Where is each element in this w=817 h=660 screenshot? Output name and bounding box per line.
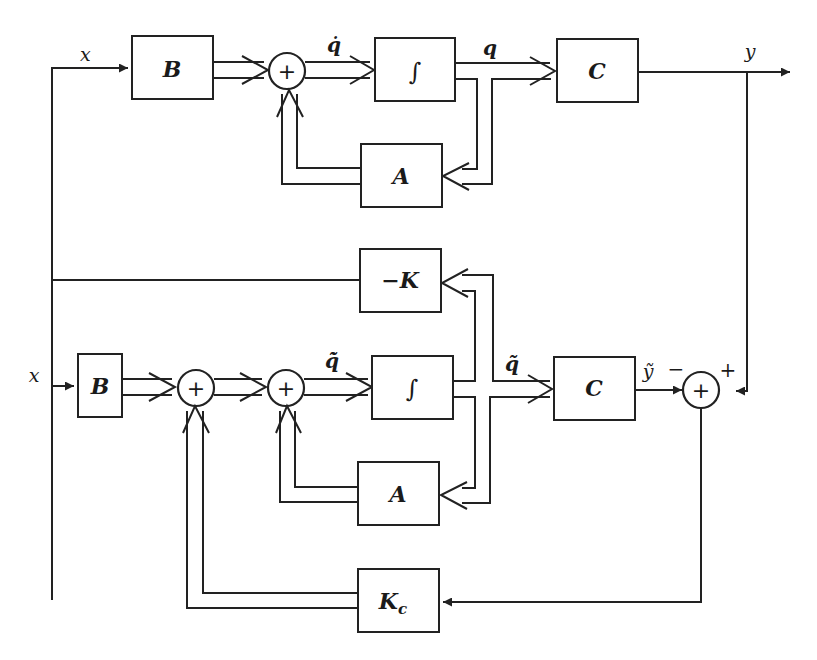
observer-b-to-sum1-arrow (122, 373, 175, 401)
observer-sum1-symbol: + (187, 376, 205, 401)
plant-a-label: A (390, 163, 409, 189)
state-feedback-gain-block: −K (360, 249, 441, 312)
plant-input-label: x (80, 43, 91, 65)
plant-qdot-label: q̇ (327, 33, 341, 57)
observer-input-label: x (29, 364, 40, 386)
observer-qtilde-arrow: q̃ (441, 269, 552, 509)
plant-b-label: B (162, 56, 182, 82)
observer-b-block: B (78, 354, 122, 417)
observer-sum1-to-sum2-arrow (214, 373, 266, 401)
plant-qdot-arrow: q̇ (305, 33, 374, 84)
plant-integrator-block: ∫ (375, 38, 455, 101)
observer-integrator-symbol: ∫ (406, 375, 419, 403)
observer-sum2-junction: + (268, 370, 304, 406)
error-sum-plus-sign: + (720, 358, 737, 382)
error-to-kc-signal (443, 408, 701, 602)
observer-ytilde-label: ỹ (642, 360, 654, 382)
plant-integrator-symbol: ∫ (409, 58, 422, 86)
observer-gain-feedback-arrow (183, 406, 358, 608)
observer-sum1-junction: + (178, 370, 214, 406)
plant-q-arrow: q (443, 36, 555, 190)
observer-qtilde-label: q̃ (505, 352, 519, 376)
state-feedback-gain-label: −K (381, 267, 419, 293)
error-sum-minus-sign: − (668, 357, 685, 381)
plant-a-feedback-arrow (277, 90, 361, 184)
observer-a-label: A (387, 481, 406, 507)
plant-q-label: q (483, 36, 497, 60)
observer-a-block: A (358, 462, 439, 525)
plant-b-block: B (132, 36, 213, 99)
plant-output-label: y (744, 40, 756, 62)
observer-qtilde-dot-label: q̃̇ (325, 349, 339, 373)
block-diagram: x B + q̇ ∫ q C (0, 0, 817, 660)
observer-a-feedback-arrow (276, 406, 358, 502)
observer-qtilde-dot-arrow: q̃̇ (304, 349, 372, 401)
error-sum-junction: + − + (668, 357, 737, 408)
plant-output-signal: y (638, 40, 790, 391)
plant-sum-junction: + (269, 53, 305, 89)
plant-sum-symbol: + (278, 59, 296, 84)
plant-c-label: C (588, 58, 606, 84)
observer-sum2-symbol: + (277, 376, 295, 401)
plant-c-block: C (557, 39, 638, 102)
observer-c-block: C (554, 357, 635, 420)
plant-b-to-sum-arrow (213, 56, 268, 84)
plant-a-block: A (361, 144, 442, 207)
observer-b-label: B (90, 373, 110, 399)
plant-input-signal: x (52, 43, 128, 600)
observer-c-label: C (585, 375, 603, 401)
error-sum-symbol: + (692, 378, 710, 403)
observer-gain-block: Kc (358, 569, 439, 632)
observer-integrator-block: ∫ (372, 356, 453, 419)
